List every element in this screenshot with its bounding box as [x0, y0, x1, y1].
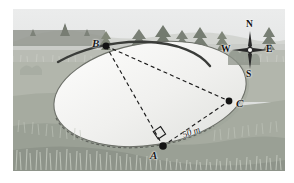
figure-container: B C A 50 m N W E S: [0, 0, 294, 183]
point-A-dot: [159, 142, 167, 150]
compass-label-west: W: [221, 45, 231, 55]
photo-content: [13, 9, 285, 171]
compass-label-east: E: [266, 45, 272, 55]
compass-label-south: S: [246, 70, 251, 80]
point-B-dot: [103, 43, 110, 50]
point-label-C: C: [236, 98, 243, 109]
compass-hub: [247, 47, 252, 52]
point-label-B: B: [92, 38, 99, 49]
point-label-A: A: [150, 150, 157, 161]
point-C-dot: [226, 98, 233, 105]
compass-label-north: N: [246, 20, 253, 30]
